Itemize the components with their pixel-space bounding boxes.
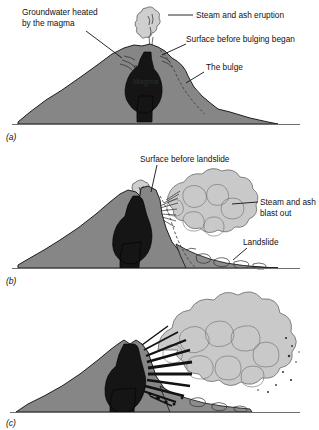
leader-surface-landslide <box>151 165 157 192</box>
panel-label-c: (c) <box>6 418 16 428</box>
volcano-sequence-diagram: Magma Groundwater heated by the magma St… <box>0 0 319 430</box>
leader-surface-bulging <box>162 44 186 55</box>
label-the-bulge: The bulge <box>206 62 243 72</box>
panel-c: (c) <box>6 292 300 428</box>
blast-cloud-b <box>160 169 258 237</box>
magma-label-a: Magma <box>133 77 159 86</box>
figure-container: Magma Groundwater heated by the magma St… <box>0 0 319 430</box>
label-surface-before-bulging: Surface before bulging began <box>186 34 295 44</box>
panel-label-b: (b) <box>6 276 17 286</box>
label-steam-ash-eruption: Steam and ash eruption <box>196 10 284 20</box>
label-groundwater-line2: by the magma <box>22 18 75 28</box>
landslide-deposit-c <box>160 386 252 412</box>
panel-b: Surface before landslide Steam and ash b… <box>6 154 316 286</box>
landslide-deposit-b <box>176 244 278 268</box>
leader-landslide <box>233 248 247 260</box>
leader-groundwater <box>86 31 122 58</box>
panel-label-a: (a) <box>6 132 17 142</box>
label-steam-blast-line2: blast out <box>260 208 292 218</box>
label-groundwater-line1: Groundwater heated <box>22 7 98 17</box>
label-steam-blast-line1: Steam and ash <box>260 197 316 207</box>
label-landslide: Landslide <box>243 237 279 247</box>
label-surface-before-landslide: Surface before landslide <box>140 154 230 164</box>
panel-a: Magma Groundwater heated by the magma St… <box>6 7 300 142</box>
steam-plume-a <box>135 7 160 48</box>
